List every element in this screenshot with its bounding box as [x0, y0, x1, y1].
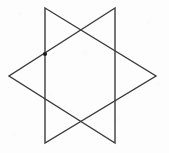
hexagram-svg: [0, 0, 169, 153]
figure-background: [0, 0, 169, 153]
hexagram-figure-canvas: [0, 0, 169, 153]
upper-left-node-marker: [43, 52, 47, 56]
